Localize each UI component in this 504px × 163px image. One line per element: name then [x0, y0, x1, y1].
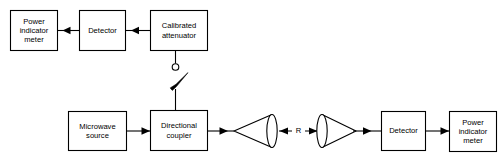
- dimension-R: R: [279, 125, 318, 137]
- power-indicator-meter-top-label-line2: indicator: [20, 26, 49, 35]
- receive-horn-aperture-icon: [317, 115, 327, 148]
- arrowhead-left-icon: [131, 27, 139, 34]
- block-detector-top: Detector: [80, 11, 126, 51]
- diagram-canvas: Power indicator meter Detector Calibrate…: [0, 0, 504, 163]
- dimension-R-label: R: [296, 126, 302, 135]
- transmit-horn-antenna: [234, 115, 277, 148]
- wire-source-to-coupler: [127, 127, 151, 134]
- block-directional-coupler: Directional coupler: [151, 111, 208, 151]
- calibrated-attenuator-label-line2: attenuator: [162, 31, 197, 40]
- power-indicator-meter-bottom-label-line2: indicator: [459, 127, 488, 136]
- directional-coupler-label-line2: coupler: [167, 131, 192, 140]
- power-indicator-meter-top-label-line1: Power: [23, 17, 45, 26]
- switch-blade-icon: [170, 73, 188, 91]
- block-diagram-figure: Power indicator meter Detector Calibrate…: [0, 0, 504, 163]
- arrowhead-right-icon: [220, 127, 229, 134]
- calibrated-attenuator-label-line1: Calibrated: [162, 21, 197, 30]
- microwave-source-label-line1: Microwave: [79, 122, 115, 131]
- block-power-indicator-meter-bottom: Power indicator meter: [450, 112, 497, 152]
- detector-top-label: Detector: [88, 26, 117, 35]
- block-calibrated-attenuator: Calibrated attenuator: [151, 11, 208, 51]
- power-indicator-meter-bottom-label-line1: Power: [462, 118, 484, 127]
- block-detector-bottom: Detector: [382, 112, 426, 151]
- arrowhead-right-icon: [142, 127, 151, 134]
- arrowhead-right-icon: [441, 127, 450, 134]
- arrowhead-right-icon: [363, 127, 372, 134]
- arrowhead-right-icon: [309, 127, 318, 134]
- receive-horn-antenna: [317, 115, 356, 148]
- wire-receive-horn-to-detector: [353, 127, 382, 134]
- power-indicator-meter-bottom-label-line3: meter: [463, 136, 483, 145]
- wire-attenuator-to-detector-top: [126, 27, 151, 34]
- transmit-horn-aperture-icon: [267, 115, 277, 148]
- wire-coupler-to-transmit-horn: [208, 127, 235, 134]
- block-microwave-source: Microwave source: [69, 112, 127, 151]
- arrowhead-left-icon: [280, 127, 289, 134]
- power-indicator-meter-top-label-line3: meter: [24, 35, 44, 44]
- block-power-indicator-meter-top: Power indicator meter: [11, 11, 58, 51]
- coupler-attenuator-switch: [170, 51, 188, 111]
- wire-detector-to-power-meter-top: [58, 27, 80, 34]
- detector-bottom-label: Detector: [389, 126, 418, 135]
- arrowhead-left-icon: [63, 27, 71, 34]
- wire-detector-to-power-meter-bottom: [426, 127, 450, 134]
- directional-coupler-label-line1: Directional: [161, 121, 197, 130]
- microwave-source-label-line2: source: [86, 131, 109, 140]
- switch-terminal-circle-icon: [172, 64, 179, 71]
